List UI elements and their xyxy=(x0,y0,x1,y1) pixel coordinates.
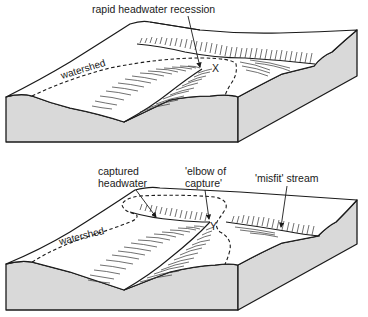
bottom-block: captured headwater 'elbow of capture' Y … xyxy=(6,165,357,310)
bottom-label-elbow-2: capture' xyxy=(185,177,222,189)
top-block: rapid headwater recession X watershed xyxy=(6,3,357,142)
river-capture-diagram: rapid headwater recession X watershed xyxy=(0,0,368,317)
top-label-x: X xyxy=(212,62,219,74)
bottom-label-headwater: headwater xyxy=(98,177,148,189)
bottom-label-elbow-1: 'elbow of xyxy=(185,165,226,177)
bottom-label-misfit: 'misfit' stream xyxy=(255,172,319,184)
top-label-recession: rapid headwater recession xyxy=(92,3,215,15)
bottom-label-y: Y xyxy=(210,220,217,232)
bottom-label-captured: captured xyxy=(98,165,139,177)
